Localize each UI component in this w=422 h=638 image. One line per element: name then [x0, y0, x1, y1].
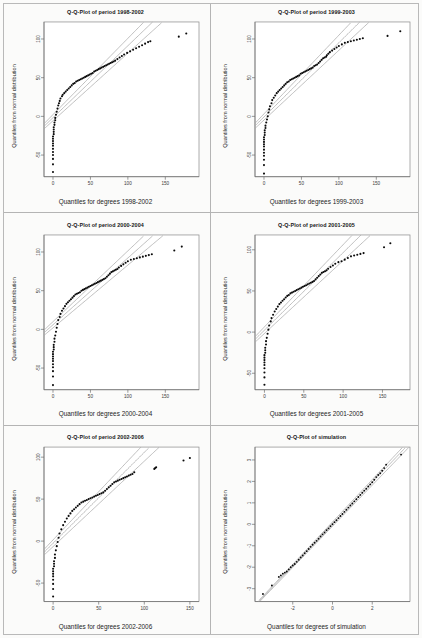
svg-text:150: 150 [379, 394, 387, 399]
x-axis-label: Quantiles for degrees 2000-2004 [0, 410, 211, 417]
svg-text:150: 150 [161, 181, 169, 186]
y-axis-label: Quantiles from normal distribution [11, 46, 17, 166]
svg-text:100: 100 [124, 394, 132, 399]
svg-text:100: 100 [140, 606, 148, 611]
svg-text:0: 0 [263, 181, 266, 186]
svg-text:50: 50 [301, 394, 307, 399]
svg-text:100: 100 [247, 35, 252, 43]
svg-text:0: 0 [52, 394, 55, 399]
svg-text:50: 50 [88, 181, 94, 186]
svg-text:50: 50 [36, 287, 41, 293]
x-axis-label: Quantiles for degrees of simulation [211, 623, 422, 630]
svg-text:0: 0 [331, 606, 334, 611]
svg-text:0: 0 [36, 115, 41, 118]
qq-plot-svg-1: 100500-50050100150 [0, 0, 211, 213]
svg-text:0: 0 [52, 606, 55, 611]
qq-panel-1999-2003[interactable]: Q-Q-Plot of period 1999-2003 100500-5005… [211, 0, 422, 213]
svg-text:0: 0 [52, 181, 55, 186]
svg-text:150: 150 [161, 394, 169, 399]
svg-text:-50: -50 [247, 151, 252, 158]
svg-text:50: 50 [96, 606, 102, 611]
svg-text:150: 150 [186, 606, 194, 611]
svg-text:0: 0 [247, 330, 252, 333]
svg-text:0: 0 [247, 115, 252, 118]
qq-panel-1998-2002[interactable]: Q-Q-Plot of period 1998-2002 100500-5005… [0, 0, 211, 213]
qq-panel-2001-2005[interactable]: Q-Q-Plot of period 2001-2005 100500-5005… [211, 213, 422, 426]
svg-text:0: 0 [247, 523, 252, 526]
svg-text:100: 100 [36, 35, 41, 43]
y-axis-label: Quantiles from normal distribution [222, 46, 228, 166]
qq-plot-svg-6: 3210-1-2-3-202 [211, 425, 422, 638]
svg-text:-50: -50 [247, 369, 252, 376]
qq-plot-svg-4: 100500-50050100150 [211, 213, 422, 426]
svg-text:2: 2 [247, 480, 252, 483]
y-axis-label: Quantiles from normal distribution [11, 259, 17, 379]
qq-panel-simulation[interactable]: Q-Q-Plot of simulation 3210-1-2-3-202 Qu… [211, 425, 422, 638]
svg-text:-2: -2 [247, 565, 252, 570]
y-axis-label: Quantiles from normal distribution [11, 472, 17, 592]
svg-text:50: 50 [247, 288, 252, 294]
y-axis-label: Quantiles from normal distribution [222, 259, 228, 379]
svg-text:-3: -3 [247, 587, 252, 592]
qq-plot-svg-2: 100500-50050100150 [211, 0, 422, 213]
qq-panel-2002-2006[interactable]: Q-Q-Plot of period 2002-2006 100500-5005… [0, 425, 211, 638]
svg-text:100: 100 [247, 245, 252, 253]
svg-text:50: 50 [247, 75, 252, 81]
svg-text:100: 100 [36, 453, 41, 461]
svg-text:3: 3 [247, 459, 252, 462]
svg-text:0: 0 [36, 540, 41, 543]
x-axis-label: Quantiles for degrees 1999-2003 [211, 198, 422, 205]
x-axis-label: Quantiles for degrees 2002-2006 [0, 623, 211, 630]
svg-text:-1: -1 [247, 544, 252, 549]
svg-text:50: 50 [36, 75, 41, 81]
y-axis-label: Quantiles from normal distribution [222, 472, 228, 592]
svg-text:50: 50 [299, 181, 305, 186]
svg-text:-50: -50 [36, 580, 41, 587]
svg-text:100: 100 [36, 247, 41, 255]
svg-text:100: 100 [335, 181, 343, 186]
figure-page: Q-Q-Plot of period 1998-2002 100500-5005… [0, 0, 422, 638]
x-axis-label: Quantiles for degrees 1998-2002 [0, 198, 211, 205]
svg-text:0: 0 [263, 394, 266, 399]
panel-grid: Q-Q-Plot of period 1998-2002 100500-5005… [0, 0, 422, 638]
svg-text:1: 1 [247, 501, 252, 504]
svg-text:50: 50 [36, 496, 41, 502]
x-axis-label: Quantiles for degrees 2001-2005 [211, 410, 422, 417]
svg-text:-50: -50 [36, 364, 41, 371]
svg-text:-2: -2 [291, 606, 296, 611]
svg-text:150: 150 [372, 181, 380, 186]
svg-text:0: 0 [36, 327, 41, 330]
svg-text:100: 100 [339, 394, 347, 399]
svg-text:2: 2 [371, 606, 374, 611]
qq-panel-2000-2004[interactable]: Q-Q-Plot of period 2000-2004 100500-5005… [0, 213, 211, 426]
svg-text:-50: -50 [36, 151, 41, 158]
svg-text:100: 100 [124, 181, 132, 186]
qq-plot-svg-5: 100500-50050100150 [0, 425, 211, 638]
svg-text:50: 50 [88, 394, 94, 399]
qq-plot-svg-3: 100500-50050100150 [0, 213, 211, 426]
